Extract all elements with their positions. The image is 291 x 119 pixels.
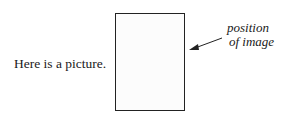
arrow-icon <box>0 0 291 119</box>
